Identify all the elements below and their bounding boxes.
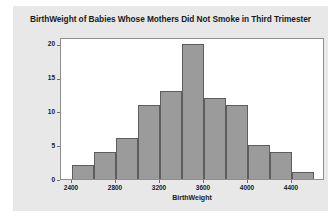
histogram-bar (292, 172, 314, 179)
y-axis: 05101520 (13, 38, 60, 180)
x-axis-tick-label: 3600 (196, 184, 210, 191)
histogram-bar (116, 138, 138, 179)
plot-area (60, 38, 324, 180)
x-axis-tick-mark (159, 180, 160, 183)
histogram-bars (61, 39, 323, 179)
x-axis-tick-label: 4000 (240, 184, 254, 191)
y-axis-tick-label: 10 (48, 108, 55, 115)
histogram-bar (182, 44, 204, 179)
y-axis-tick-label: 15 (48, 74, 55, 81)
histogram-bar (248, 145, 270, 179)
x-axis-tick-mark (291, 180, 292, 183)
x-axis-tick-label: 2400 (64, 184, 78, 191)
x-axis-tick-label: 3200 (152, 184, 166, 191)
histogram-bar (160, 91, 182, 179)
x-axis-tick-label: 4400 (284, 184, 298, 191)
histogram-bar (72, 165, 94, 179)
histogram-bar (204, 98, 226, 179)
y-axis-tick-label: 0 (51, 176, 55, 183)
histogram-bar (138, 105, 160, 179)
histogram-bar (226, 105, 248, 179)
histogram-bar (94, 152, 116, 179)
x-axis-tick-label: 2800 (108, 184, 122, 191)
x-axis-tick-mark (115, 180, 116, 183)
histogram-bar (270, 152, 292, 179)
x-axis: 240028003200360040004400 (60, 180, 324, 194)
y-axis-tick-label: 20 (48, 40, 55, 47)
chart-title: BirthWeight of Babies Whose Mothers Did … (13, 14, 328, 24)
chart-figure: BirthWeight of Babies Whose Mothers Did … (13, 6, 328, 211)
x-axis-tick-mark (247, 180, 248, 183)
y-axis-tick-label: 5 (51, 142, 55, 149)
x-axis-tick-mark (203, 180, 204, 183)
x-axis-tick-mark (71, 180, 72, 183)
x-axis-title: BirthWeight (60, 194, 324, 201)
